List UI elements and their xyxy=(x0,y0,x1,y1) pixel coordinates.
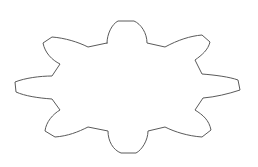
gear-outline-path xyxy=(15,21,240,153)
diagram-canvas xyxy=(0,0,258,167)
gear-shape-drawing xyxy=(0,0,258,167)
